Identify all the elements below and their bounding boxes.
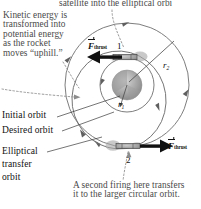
radius-subscript-inner: 1: [122, 104, 125, 110]
label-radius-inner: r1: [118, 99, 124, 110]
thrust-subscript-2: thrust: [174, 144, 187, 150]
label-burn-2: 2: [126, 155, 131, 165]
label-radius-outer: r2: [163, 60, 169, 71]
thrust-arrow-1: [87, 51, 122, 64]
thrust-symbol-1: F: [88, 41, 94, 51]
label-burn-1: 1: [117, 41, 122, 51]
label-thrust-force-2: Fthrust: [168, 141, 187, 151]
label-initial-orbit: Initial orbit: [2, 111, 46, 121]
annotation-top: satellite into the elliptical orbi: [59, 0, 172, 8]
label-thrust-force-1: Fthrust: [88, 41, 107, 51]
thrust-subscript-1: thrust: [94, 44, 107, 50]
leader-elliptical-orbit: [47, 137, 102, 152]
label-elliptical-transfer-orbit-line2: transfer: [2, 160, 32, 170]
radius-subscript-outer: 2: [167, 65, 170, 71]
label-elliptical-transfer-orbit-line1: Elliptical: [2, 147, 38, 157]
leader-kinetic-energy-2: [2, 89, 74, 97]
hohmann-transfer-figure: satellite into the elliptical orbi Kinet…: [0, 0, 201, 209]
leader-kinetic-arrowhead: [74, 95, 81, 100]
annotation-second-firing: A second firing here transfers it to the…: [73, 181, 184, 200]
annotation-kinetic-energy: Kinetic energy is transformed into poten…: [3, 11, 67, 58]
leader-desired-orbit: [62, 112, 114, 131]
thrust-symbol-2: F: [168, 141, 174, 151]
label-desired-orbit: Desired orbit: [2, 126, 53, 136]
label-elliptical-transfer-orbit-line3: orbit: [2, 173, 20, 183]
